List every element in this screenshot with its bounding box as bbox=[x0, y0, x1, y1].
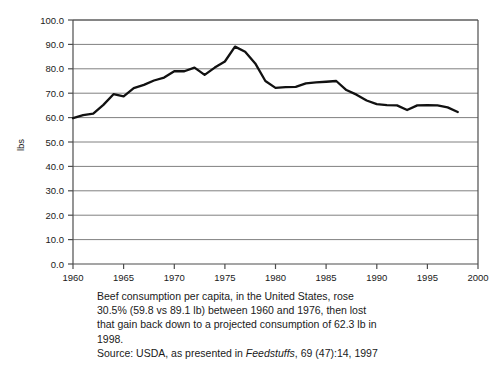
y-tick-label-70: 70.0 bbox=[46, 88, 65, 99]
y-tick-label-30: 30.0 bbox=[46, 185, 65, 196]
source-prefix: Source: USDA, as presented in bbox=[97, 347, 246, 359]
x-tick-marks bbox=[73, 264, 478, 269]
y-tick-label-100: 100.0 bbox=[40, 15, 64, 26]
caption-line-1: Beef consumption per capita, in the Unit… bbox=[97, 289, 437, 303]
x-tick-label-1960: 1960 bbox=[62, 272, 83, 283]
chart-caption: Beef consumption per capita, in the Unit… bbox=[97, 289, 437, 360]
beef-consumption-line-chart: 100.0 90.0 80.0 70.0 60.0 50.0 40.0 30.0… bbox=[0, 0, 503, 288]
y-tick-label-90: 90.0 bbox=[46, 39, 65, 50]
x-tick-label-1995: 1995 bbox=[417, 272, 438, 283]
caption-source-line: Source: USDA, as presented in Feedstuffs… bbox=[97, 346, 437, 360]
caption-line-4: 1998. bbox=[97, 332, 437, 346]
y-tick-labels: 100.0 90.0 80.0 70.0 60.0 50.0 40.0 30.0… bbox=[40, 15, 64, 270]
y-axis-title: lbs bbox=[15, 139, 26, 151]
caption-line-3: that gain back down to a projected consu… bbox=[97, 317, 437, 331]
y-tick-label-80: 80.0 bbox=[46, 63, 65, 74]
y-tick-label-50: 50.0 bbox=[46, 137, 65, 148]
x-tick-label-1970: 1970 bbox=[164, 272, 185, 283]
y-tick-label-0: 0.0 bbox=[51, 259, 64, 270]
y-tick-label-20: 20.0 bbox=[46, 210, 65, 221]
y-tick-label-10: 10.0 bbox=[46, 234, 65, 245]
y-tick-label-60: 60.0 bbox=[46, 112, 65, 123]
source-suffix: , 69 (47):14, 1997 bbox=[295, 347, 378, 359]
x-tick-label-1975: 1975 bbox=[214, 272, 235, 283]
source-publication: Feedstuffs bbox=[246, 347, 295, 359]
x-tick-labels: 1960 1965 1970 1975 1980 1985 1990 1995 … bbox=[62, 272, 488, 283]
y-tick-marks bbox=[68, 20, 73, 264]
caption-line-2: 30.5% (59.8 vs 89.1 lb) between 1960 and… bbox=[97, 303, 437, 317]
x-tick-label-1990: 1990 bbox=[366, 272, 387, 283]
chart-page: 100.0 90.0 80.0 70.0 60.0 50.0 40.0 30.0… bbox=[0, 0, 503, 375]
x-tick-label-1965: 1965 bbox=[113, 272, 134, 283]
x-tick-label-1985: 1985 bbox=[316, 272, 337, 283]
x-tick-label-2000: 2000 bbox=[467, 272, 488, 283]
chart-figure: 100.0 90.0 80.0 70.0 60.0 50.0 40.0 30.0… bbox=[0, 0, 503, 288]
y-tick-label-40: 40.0 bbox=[46, 161, 65, 172]
x-tick-label-1980: 1980 bbox=[265, 272, 286, 283]
